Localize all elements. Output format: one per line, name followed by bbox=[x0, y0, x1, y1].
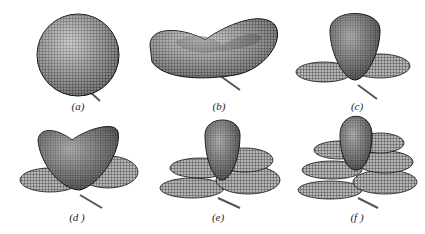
panel-label-d: (d ) bbox=[69, 211, 85, 223]
panel-d-saddle-ring bbox=[20, 127, 138, 208]
panel-label-b: (b) bbox=[213, 100, 226, 112]
panel-label-e: (e) bbox=[212, 211, 224, 223]
panel-a-sphere bbox=[37, 14, 119, 101]
panel-c-lobe bbox=[296, 14, 410, 100]
panel-f-lobe-three-rings bbox=[298, 116, 417, 208]
figure-canvas bbox=[0, 0, 425, 234]
panel-label-c: (c) bbox=[351, 100, 363, 112]
panel-label-f: (f ) bbox=[350, 211, 363, 223]
panel-e-lobe-two-rings bbox=[160, 120, 280, 208]
panel-b-saddle bbox=[150, 19, 278, 90]
panel-label-a: (a) bbox=[72, 100, 85, 112]
